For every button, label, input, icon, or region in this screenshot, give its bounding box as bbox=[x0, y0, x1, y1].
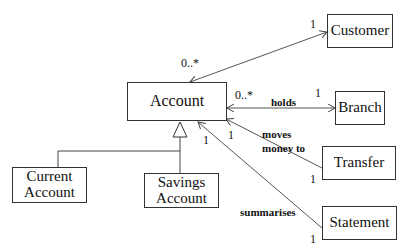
label-moves: moves bbox=[262, 128, 291, 140]
mult-statement-end: 1 bbox=[310, 232, 316, 247]
class-current-account[interactable]: Current Account bbox=[12, 167, 87, 203]
association-account-customer bbox=[190, 32, 327, 82]
class-current-account-line2: Account bbox=[24, 185, 75, 201]
mult-account-transfer-end: 1 bbox=[228, 128, 234, 143]
class-account-name: Account bbox=[150, 93, 204, 110]
mult-branch-end: 1 bbox=[315, 86, 321, 101]
mult-transfer-end: 1 bbox=[310, 172, 316, 187]
class-savings-account[interactable]: Savings Account bbox=[144, 173, 219, 208]
generalization-triangle-icon bbox=[173, 122, 187, 137]
label-holds: holds bbox=[271, 96, 296, 108]
class-transfer[interactable]: Transfer bbox=[322, 146, 396, 180]
class-customer-name: Customer bbox=[331, 23, 389, 39]
class-account[interactable]: Account bbox=[127, 82, 227, 121]
mult-account-statement-end: 1 bbox=[203, 133, 209, 148]
class-savings-account-line1: Savings bbox=[158, 175, 206, 191]
class-branch[interactable]: Branch bbox=[335, 91, 385, 125]
mult-customer-end: 1 bbox=[310, 17, 316, 32]
class-branch-name: Branch bbox=[338, 100, 381, 116]
mult-account-branch-end: 0..* bbox=[235, 88, 253, 103]
class-customer[interactable]: Customer bbox=[327, 14, 393, 48]
class-transfer-name: Transfer bbox=[334, 155, 384, 171]
class-statement[interactable]: Statement bbox=[322, 206, 397, 240]
label-summarises: summarises bbox=[240, 206, 296, 218]
class-statement-name: Statement bbox=[330, 215, 390, 231]
mult-account-customer-end: 0..* bbox=[181, 56, 199, 71]
label-money-to: money to bbox=[262, 142, 305, 154]
class-current-account-line1: Current bbox=[27, 169, 73, 185]
class-savings-account-line2: Account bbox=[156, 191, 207, 207]
